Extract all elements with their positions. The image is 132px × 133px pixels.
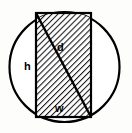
inscribed-rectangle-figure	[0, 0, 132, 133]
label-width: w	[55, 103, 64, 114]
figure-container: h d w	[0, 0, 132, 133]
label-height: h	[24, 61, 31, 72]
label-diagonal: d	[57, 42, 64, 53]
